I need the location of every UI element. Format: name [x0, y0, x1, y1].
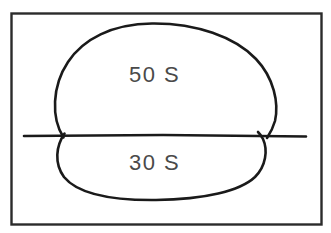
sketch-canvas [0, 0, 331, 233]
upper-region-label: 50 S [129, 62, 180, 88]
figure-container: 50 S 30 S [0, 0, 331, 233]
paper-background [0, 0, 331, 233]
horizontal-centerline [24, 135, 306, 137]
lower-region-label: 30 S [129, 150, 180, 176]
